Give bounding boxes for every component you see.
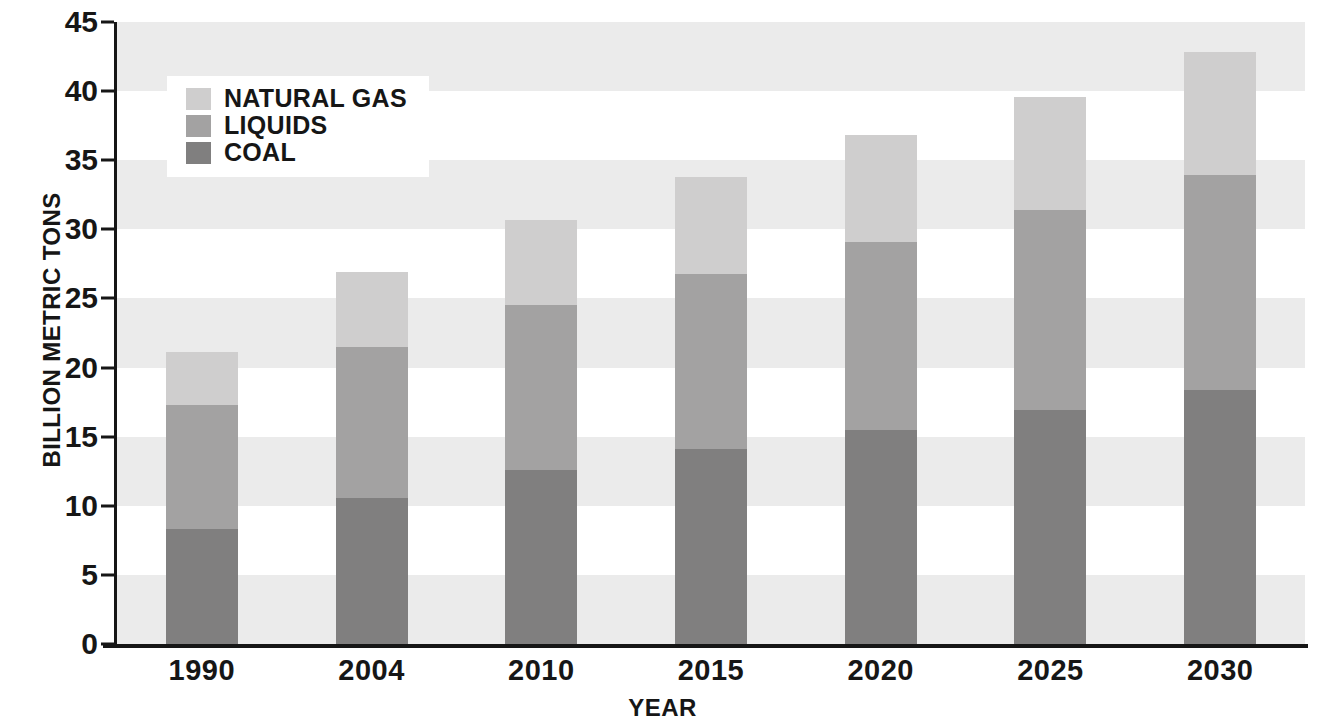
bar-segment-liquids xyxy=(675,274,747,450)
x-tick-label: 2010 xyxy=(471,654,611,687)
y-tick-mark xyxy=(101,297,114,300)
bar-segment-coal xyxy=(1184,390,1256,644)
legend-item-coal: COAL xyxy=(186,139,407,166)
y-tick-mark xyxy=(101,504,114,507)
y-tick-mark xyxy=(101,643,114,646)
y-tick-mark xyxy=(101,573,114,576)
y-tick-mark xyxy=(101,228,114,231)
legend-swatch-coal xyxy=(186,142,211,164)
y-tick-label: 15 xyxy=(36,422,98,452)
bar-segment-coal xyxy=(505,470,577,644)
legend-label-liquids: LIQUIDS xyxy=(224,111,328,140)
bar-2010 xyxy=(505,22,577,644)
stacked-bar-chart: BILLION METRIC TONS 051015202530354045 N… xyxy=(0,0,1325,722)
bar-segment-natural-gas xyxy=(336,272,408,347)
y-tick-label: 25 xyxy=(36,283,98,313)
bar-2030 xyxy=(1184,22,1256,644)
legend-swatch-natural-gas xyxy=(186,88,211,110)
x-axis-title: YEAR xyxy=(0,694,1325,722)
y-tick-label: 10 xyxy=(36,491,98,521)
y-axis-title: BILLION METRIC TONS xyxy=(38,20,66,640)
x-tick-label: 2004 xyxy=(302,654,442,687)
bar-segment-liquids xyxy=(166,405,238,529)
legend-item-liquids: LIQUIDS xyxy=(186,112,407,139)
y-tick-label: 20 xyxy=(36,353,98,383)
chart-legend: NATURAL GAS LIQUIDS COAL xyxy=(167,76,429,177)
y-tick-label: 40 xyxy=(36,76,98,106)
y-tick-mark xyxy=(101,90,114,93)
bar-segment-liquids xyxy=(1014,210,1086,410)
y-tick-label: 0 xyxy=(36,629,98,659)
bar-segment-natural-gas xyxy=(1184,52,1256,175)
y-tick-label: 35 xyxy=(36,145,98,175)
x-tick-label: 2020 xyxy=(811,654,951,687)
bar-segment-natural-gas xyxy=(505,220,577,306)
bar-segment-liquids xyxy=(1184,175,1256,389)
bar-segment-coal xyxy=(1014,410,1086,644)
bar-segment-natural-gas xyxy=(1014,97,1086,210)
x-tick-label: 1990 xyxy=(132,654,272,687)
x-axis-line xyxy=(103,644,1308,648)
bar-2020 xyxy=(845,22,917,644)
bar-2015 xyxy=(675,22,747,644)
y-tick-mark xyxy=(101,21,114,24)
bar-segment-coal xyxy=(166,529,238,644)
legend-swatch-liquids xyxy=(186,115,211,137)
x-tick-label: 2030 xyxy=(1150,654,1290,687)
bar-segment-coal xyxy=(675,449,747,644)
y-tick-label: 30 xyxy=(36,214,98,244)
legend-label-natural-gas: NATURAL GAS xyxy=(224,84,407,113)
y-tick-mark xyxy=(101,159,114,162)
bar-segment-coal xyxy=(336,498,408,645)
bar-segment-natural-gas xyxy=(166,352,238,405)
legend-label-coal: COAL xyxy=(224,138,296,167)
y-tick-label: 45 xyxy=(36,7,98,37)
y-tick-label: 5 xyxy=(36,560,98,590)
y-tick-mark xyxy=(101,366,114,369)
bar-segment-natural-gas xyxy=(845,135,917,241)
y-tick-mark xyxy=(101,435,114,438)
bar-segment-liquids xyxy=(845,242,917,430)
x-tick-label: 2015 xyxy=(641,654,781,687)
bar-2025 xyxy=(1014,22,1086,644)
legend-item-natural-gas: NATURAL GAS xyxy=(186,85,407,112)
bar-segment-natural-gas xyxy=(675,177,747,274)
x-tick-label: 2025 xyxy=(980,654,1120,687)
bar-segment-coal xyxy=(845,430,917,644)
bar-segment-liquids xyxy=(336,347,408,498)
bar-segment-liquids xyxy=(505,305,577,469)
